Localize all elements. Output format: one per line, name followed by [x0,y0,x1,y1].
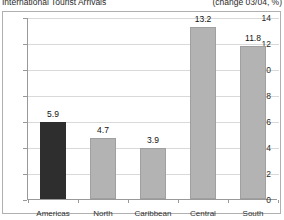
x-axis-tick-5 [278,200,279,203]
gridline-12 [28,44,279,45]
bar-value-label-south: 11.8 [228,33,278,43]
plot-area: 024681012145.9Americas4.7North3.9Caribbe… [27,18,277,200]
bar-value-label-americas: 5.9 [28,109,78,119]
chart-title: International Tourist Arrivals [2,0,106,7]
y-axis-tick-4 [23,148,27,149]
x-axis-tick-4 [228,200,229,203]
y-axis-label-14: 14 [255,13,271,23]
bar-north [90,138,116,199]
x-axis-tick-3 [178,200,179,203]
y-axis-tick-8 [23,96,27,97]
x-axis-tick-1 [78,200,79,203]
chart-subtitle: (change 03/04, %) [213,0,282,7]
x-axis-label-south: South [223,209,283,219]
chart-frame: 024681012145.9Americas4.7North3.9Caribbe… [2,11,281,214]
y-axis-tick-12 [23,44,27,45]
bar-central [190,27,216,199]
bar-value-label-central: 13.2 [178,14,228,24]
y-axis-tick-2 [23,174,27,175]
y-axis-tick-0 [23,200,27,201]
y-axis-tick-14 [23,18,27,19]
y-axis-tick-10 [23,70,27,71]
chart-header: International Tourist Arrivals (change 0… [2,0,282,7]
bar-value-label-north: 4.7 [78,125,128,135]
bar-americas [40,122,66,199]
bar-caribbean [140,148,166,199]
chart-page: { "header": { "title": "International To… [0,0,284,220]
x-axis-tick-2 [128,200,129,203]
gridline-14 [28,18,279,19]
bar-value-label-caribbean: 3.9 [128,135,178,145]
x-axis-tick-0 [28,200,29,203]
y-axis-tick-6 [23,122,27,123]
bar-south [240,46,266,199]
